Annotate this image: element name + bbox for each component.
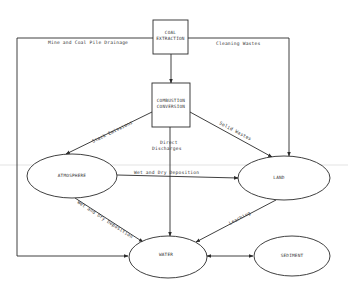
edge-label-stack-emissions: Stack Emissions [91, 120, 133, 144]
node-label-extraction: EXTRACTION [156, 36, 185, 41]
node-label-atmosphere: ATMOSPHERE [58, 173, 87, 178]
edge-label-direct-discharges-2: Discharges [152, 146, 182, 151]
coal-pollutant-pathways-diagram: Mine and Coal Pile Drainage Cleaning Was… [0, 0, 348, 288]
edge-label-cleaning-wastes: Cleaning Wastes [216, 41, 261, 46]
edge-label-solid-wastes: Solid Wastes [219, 120, 253, 141]
node-water: WATER [129, 236, 207, 278]
edge-atm-to-land [117, 175, 238, 178]
edge-label-atm-to-water: Wet and Dry Deposition [76, 200, 133, 240]
node-label-coal: COAL [165, 30, 177, 35]
node-coal-extraction: COAL EXTRACTION [153, 20, 188, 54]
edge-label-atm-to-land: Wet and Dry Deposition [134, 170, 199, 175]
edge-mine-drainage [17, 38, 153, 256]
node-atmosphere: ATMOSPHERE [27, 154, 117, 198]
node-land: LAND [238, 156, 330, 200]
node-label-sediment: SEDIMENT [281, 253, 304, 258]
edge-label-leaching: Leaching [228, 210, 251, 226]
edge-label-direct-discharges-1: Direct [160, 140, 178, 145]
node-label-land: LAND [273, 175, 285, 180]
node-sediment: SEDIMENT [254, 236, 330, 276]
node-combustion-conversion: COMBUSTION CONVERSION [152, 83, 190, 127]
node-label-conversion: CONVERSION [157, 104, 186, 109]
node-label-combustion: COMBUSTION [157, 98, 186, 103]
node-label-water: WATER [159, 252, 173, 257]
edge-label-mine-drainage: Mine and Coal Pile Drainage [48, 40, 128, 45]
edge-solid-wastes [190, 112, 272, 157]
